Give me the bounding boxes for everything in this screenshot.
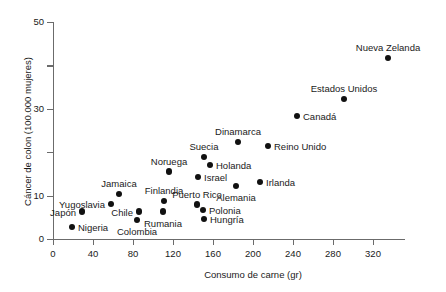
data-point[interactable]: [201, 154, 208, 161]
x-tick-mark: [333, 239, 334, 245]
y-tick-mark: [47, 109, 53, 110]
x-tick-label: 80: [113, 248, 153, 259]
y-tick-mark: [47, 196, 53, 197]
data-point[interactable]: [201, 216, 208, 223]
data-point-label: Puerto Rico: [172, 188, 222, 199]
x-tick-mark: [253, 239, 254, 245]
data-point[interactable]: [265, 143, 272, 150]
data-point[interactable]: [233, 183, 240, 190]
x-tick-label: 240: [273, 248, 313, 259]
x-tick-label: 160: [193, 248, 233, 259]
data-point-label: Jamaica: [101, 177, 136, 188]
data-point[interactable]: [134, 217, 141, 224]
data-point-label: Nigeria: [78, 221, 108, 232]
data-point[interactable]: [160, 208, 167, 215]
x-tick-mark: [173, 239, 174, 245]
y-tick-label-text: 50: [22, 17, 44, 27]
data-point-label: Chile: [111, 206, 133, 217]
x-tick-mark: [293, 239, 294, 245]
data-point[interactable]: [161, 198, 168, 205]
data-point-label: Holanda: [216, 159, 251, 170]
x-tick-label: 0: [33, 248, 73, 259]
data-point[interactable]: [195, 174, 202, 181]
data-point[interactable]: [294, 113, 301, 120]
data-point-label: Yugoslavia: [59, 198, 105, 209]
x-tick-label: 40: [73, 248, 113, 259]
y-axis-title: Cáncer de colon (100.000 mujeres): [22, 32, 33, 232]
data-point[interactable]: [116, 191, 123, 198]
data-point-label: Suecia: [189, 140, 218, 151]
y-tick-mark: [47, 152, 53, 153]
y-tick-label-text: 0: [22, 234, 44, 244]
y-tick-mark: [47, 65, 53, 66]
data-point[interactable]: [69, 224, 76, 231]
data-point-label: Estados Unidos: [311, 82, 378, 93]
x-tick-label: 200: [233, 248, 273, 259]
data-point[interactable]: [207, 162, 214, 169]
data-point-label: Irlanda: [266, 177, 295, 188]
y-tick-label: 50: [20, 17, 44, 27]
data-point[interactable]: [257, 179, 264, 186]
data-point[interactable]: [235, 139, 242, 146]
data-point[interactable]: [341, 96, 348, 103]
data-point[interactable]: [166, 168, 173, 175]
data-point[interactable]: [385, 55, 392, 62]
x-tick-label: 120: [153, 248, 193, 259]
x-tick-label: 280: [313, 248, 353, 259]
x-tick-label: 320: [353, 248, 393, 259]
data-point-label: Canadá: [303, 111, 336, 122]
data-point-label: Dinamarca: [215, 125, 261, 136]
data-point-label: Rumania: [144, 217, 182, 228]
x-tick-mark: [373, 239, 374, 245]
data-point[interactable]: [136, 208, 143, 215]
data-point[interactable]: [194, 201, 201, 208]
x-tick-mark: [133, 239, 134, 245]
data-point-label: Alemania: [216, 192, 256, 203]
data-point-label: Reino Unido: [274, 141, 326, 152]
data-point[interactable]: [79, 208, 86, 215]
data-point-label: Israel: [204, 171, 227, 182]
y-tick-mark: [47, 22, 53, 23]
data-point-label: Noruega: [151, 155, 187, 166]
data-point[interactable]: [200, 207, 207, 214]
x-axis-line: [53, 239, 405, 240]
x-axis-title: Consumo de carne (gr): [133, 269, 373, 280]
data-point-label: Hungría: [210, 214, 244, 225]
data-point-label: Nueva Zelanda: [356, 42, 420, 53]
scatter-chart-figure: 0103050 04080120160200240280320 NigeriaJ…: [0, 0, 446, 292]
x-tick-mark: [53, 239, 54, 245]
y-tick-label: 0: [20, 234, 44, 244]
x-tick-mark: [213, 239, 214, 245]
x-tick-mark: [93, 239, 94, 245]
